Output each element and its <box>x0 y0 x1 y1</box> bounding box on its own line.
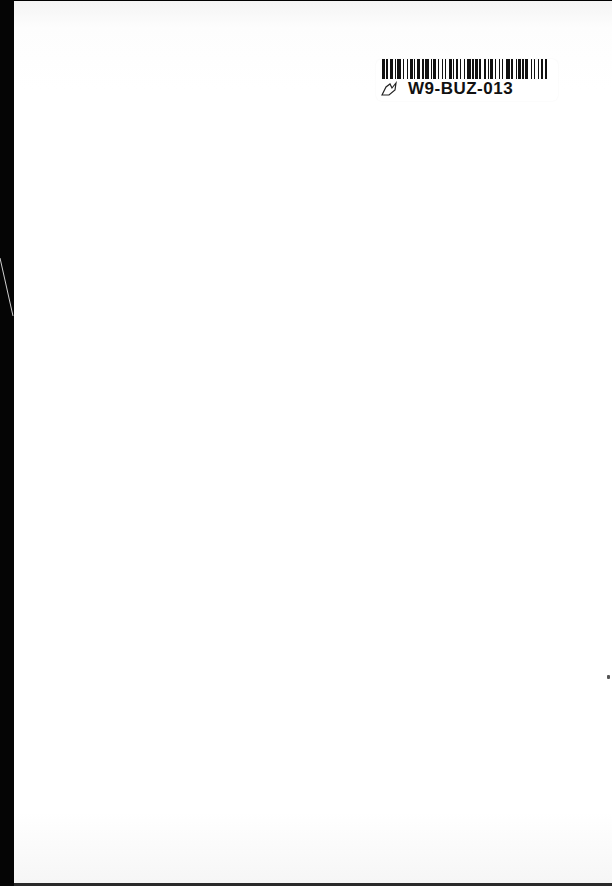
barcode <box>382 59 548 79</box>
barcode-bar <box>545 59 548 79</box>
book-spine-shadow <box>0 0 14 886</box>
barcode-code-text: W9-BUZ-013 <box>408 79 513 99</box>
handwritten-mark-icon <box>380 81 398 97</box>
library-barcode-label: W9-BUZ-013 <box>376 59 558 101</box>
page-speck <box>607 675 610 679</box>
barcode-caption: W9-BUZ-013 <box>380 79 513 99</box>
blank-page: W9-BUZ-013 <box>14 1 612 883</box>
page-crease-line <box>0 258 14 318</box>
